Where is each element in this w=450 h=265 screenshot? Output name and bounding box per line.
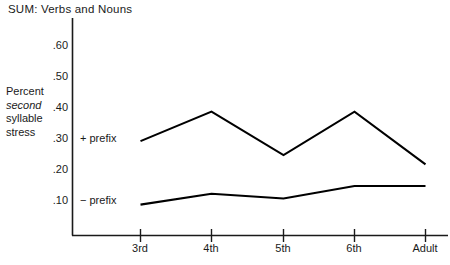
plot-area — [0, 0, 450, 265]
series-line-minus-prefix — [141, 186, 426, 205]
series-line-plus-prefix — [141, 112, 426, 165]
chart-container: SUM: Verbs and Nouns Percent second syll… — [0, 0, 450, 265]
